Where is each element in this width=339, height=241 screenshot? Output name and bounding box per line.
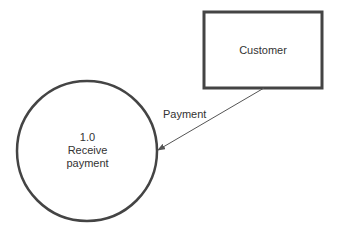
external-entity-customer-label: Customer: [204, 44, 322, 57]
process-number: 1.0: [30, 131, 145, 144]
data-flow-payment-label: Payment: [163, 108, 206, 121]
process-name-line1: Receive: [30, 144, 145, 157]
process-label: 1.0 Receive payment: [30, 131, 145, 170]
process-name-line2: payment: [30, 157, 145, 170]
